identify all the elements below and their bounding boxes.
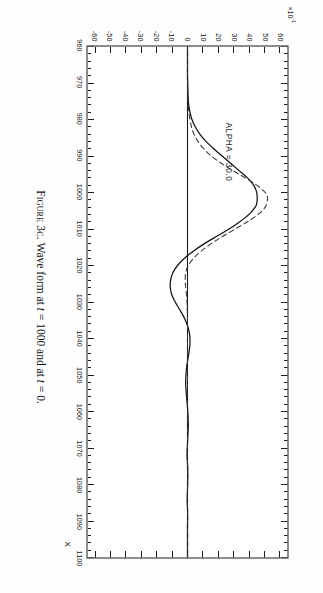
figure-page: ×10-1 X ALPHA = 30.0 9609709809901000101… bbox=[0, 0, 323, 593]
y-tick-label: 60 bbox=[276, 33, 285, 41]
x-tick-label: 1080 bbox=[74, 477, 83, 493]
y-tick-label: 0 bbox=[183, 37, 192, 41]
x-tick-label: 1060 bbox=[74, 403, 83, 419]
figure-caption: Figure 3c. Wave form at t = 1000 and at … bbox=[34, 0, 46, 593]
y-tick-label: -20 bbox=[151, 30, 160, 41]
y-exponent-power: -1 bbox=[290, 18, 296, 23]
y-tick-label: 10 bbox=[198, 33, 207, 41]
x-tick-label: 1000 bbox=[74, 183, 83, 199]
rotated-figure-container: ×10-1 X ALPHA = 30.0 9609709809901000101… bbox=[0, 0, 323, 593]
x-tick-label: 1070 bbox=[74, 440, 83, 456]
y-tick-label: -30 bbox=[136, 30, 145, 41]
x-tick-label: 1100 bbox=[74, 550, 83, 566]
caption-text-3: = 0. bbox=[34, 382, 46, 403]
y-tick-label: -50 bbox=[105, 30, 114, 41]
y-tick-label: 30 bbox=[229, 33, 238, 41]
x-tick-label: 1020 bbox=[74, 257, 83, 273]
caption-figure-number: Figure 3c. bbox=[34, 190, 46, 240]
x-axis-title: X bbox=[62, 541, 71, 546]
series-curve-0 bbox=[170, 46, 257, 557]
y-axis-exponent-label: ×10-1 bbox=[287, 6, 296, 23]
y-tick-label: 20 bbox=[214, 33, 223, 41]
y-tick-label: 40 bbox=[245, 33, 254, 41]
x-tick-label: 1040 bbox=[74, 330, 83, 346]
caption-text-1: Wave form at bbox=[34, 239, 46, 307]
x-tick-label: 1010 bbox=[74, 220, 83, 236]
alpha-annotation: ALPHA = 30.0 bbox=[223, 122, 232, 181]
y-tick-label: -10 bbox=[167, 30, 176, 41]
y-tick-label: -40 bbox=[120, 30, 129, 41]
y-tick-label: 50 bbox=[260, 33, 269, 41]
x-tick-label: 960 bbox=[74, 39, 83, 51]
y-tick-label: -60 bbox=[89, 30, 98, 41]
caption-text-2: = 1000 and at bbox=[34, 310, 46, 379]
x-tick-label: 980 bbox=[74, 112, 83, 124]
x-tick-label: 1090 bbox=[74, 513, 83, 529]
x-tick-label: 970 bbox=[74, 75, 83, 87]
y-exponent-mantissa: ×10 bbox=[287, 6, 294, 18]
plot-frame: ALPHA = 30.0 bbox=[86, 45, 288, 558]
x-tick-label: 1030 bbox=[74, 293, 83, 309]
x-tick-label: 1050 bbox=[74, 367, 83, 383]
chart-block: ×10-1 X ALPHA = 30.0 9609709809901000101… bbox=[58, 0, 323, 593]
x-tick-label: 990 bbox=[74, 149, 83, 161]
plot-canvas bbox=[87, 46, 287, 557]
